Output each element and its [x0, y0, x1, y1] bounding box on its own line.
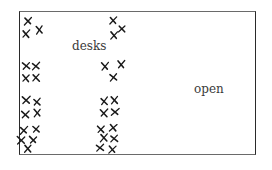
desk-x-icon: [109, 73, 117, 81]
desk-x-icon: [32, 125, 40, 133]
desk-x-icon: [109, 17, 117, 25]
desk-x-icon: [108, 145, 116, 153]
desk-x-icon: [22, 62, 30, 70]
desk-x-icon: [109, 124, 117, 132]
desk-x-icon: [100, 97, 108, 105]
desk-x-icon: [21, 110, 29, 118]
desk-x-icon: [24, 145, 32, 153]
desk-x-icon: [110, 31, 118, 39]
desk-x-icon: [101, 62, 109, 70]
desk-x-icon: [32, 74, 40, 82]
desk-x-icon: [118, 25, 126, 33]
desk-x-icon: [33, 109, 41, 117]
desk-x-icon: [17, 136, 25, 144]
desk-x-icon: [24, 17, 32, 25]
desk-x-icon: [35, 26, 43, 34]
desk-x-icon: [32, 62, 40, 70]
desk-x-icon: [33, 98, 41, 106]
desk-x-icon: [22, 74, 30, 82]
desk-x-icon: [117, 60, 125, 68]
desk-x-icon: [22, 96, 30, 104]
desk-x-icon: [100, 134, 108, 142]
desk-x-icon: [20, 126, 28, 134]
desk-x-icon: [111, 108, 119, 116]
desk-x-icon: [97, 125, 105, 133]
desks-label: desks: [72, 40, 106, 52]
desk-x-icon: [100, 109, 108, 117]
desk-x-icon: [22, 30, 30, 38]
open-area-label: open: [194, 83, 224, 95]
desk-x-icon: [110, 96, 118, 104]
desk-x-icon: [29, 136, 37, 144]
desk-x-icon: [96, 144, 104, 152]
desk-x-icon: [110, 135, 118, 143]
